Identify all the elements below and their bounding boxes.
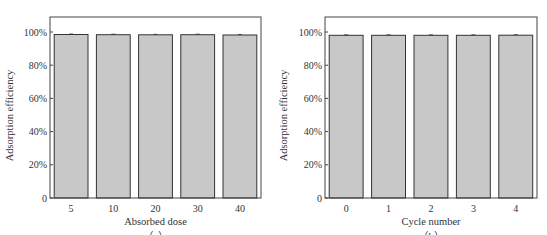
bar — [96, 35, 130, 198]
x-tick-label: 0 — [344, 203, 349, 214]
x-tick-label: 4 — [513, 203, 518, 214]
y-axis-title: Adsorption efficiency — [278, 69, 289, 161]
x-axis-title: Cycle number — [401, 216, 461, 227]
chart-panel-1: 01234020%40%60%80%100%Cycle numberAdsorp… — [278, 17, 537, 235]
x-axis-title: Absorbed dose — [124, 216, 187, 227]
bar — [499, 35, 533, 198]
x-tick-label: 20 — [151, 203, 161, 214]
bar — [329, 35, 363, 198]
y-tick-label: 60% — [304, 93, 322, 104]
y-axis-title: Adsorption efficiency — [4, 69, 15, 161]
panel-label: （b） — [418, 231, 443, 235]
y-tick-label: 80% — [304, 60, 322, 71]
bar — [414, 35, 448, 198]
y-tick-label: 40% — [29, 126, 47, 137]
figure: 510203040020%40%60%80%100%Absorbed doseA… — [0, 0, 547, 235]
y-tick-label: 20% — [29, 159, 47, 170]
x-tick-label: 30 — [193, 203, 203, 214]
x-tick-label: 2 — [429, 203, 434, 214]
y-tick-label: 20% — [304, 159, 322, 170]
bar — [223, 35, 257, 198]
y-tick-label: 0 — [42, 193, 47, 204]
bar — [456, 35, 490, 198]
chart-panel-0: 510203040020%40%60%80%100%Absorbed doseA… — [4, 17, 261, 235]
bar — [139, 35, 173, 198]
y-tick-label: 80% — [29, 60, 47, 71]
y-tick-label: 100% — [24, 27, 47, 38]
x-tick-label: 5 — [69, 203, 74, 214]
panel-label: （a） — [143, 231, 168, 235]
y-tick-label: 60% — [29, 93, 47, 104]
x-tick-label: 3 — [471, 203, 476, 214]
x-tick-label: 40 — [235, 203, 245, 214]
bar — [181, 35, 215, 198]
y-tick-label: 100% — [299, 27, 322, 38]
bar — [372, 35, 406, 198]
x-tick-label: 1 — [386, 203, 391, 214]
x-tick-label: 10 — [108, 203, 118, 214]
y-tick-label: 0 — [317, 193, 322, 204]
bar — [54, 35, 88, 199]
y-tick-label: 40% — [304, 126, 322, 137]
